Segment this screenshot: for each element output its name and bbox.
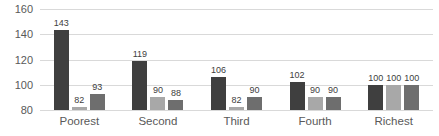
data-label-third-series1: 106 (206, 65, 232, 75)
data-label-fourth-series3: 90 (320, 85, 346, 95)
x-axis-category-label-fourth: Fourth (276, 115, 354, 128)
data-label-richest-series3: 100 (399, 73, 425, 83)
x-axis-category-label-second: Second (119, 115, 197, 128)
bar-second-series2 (150, 97, 165, 110)
data-label-fourth-series1: 102 (284, 70, 310, 80)
data-label-poorest-series1: 143 (48, 18, 74, 28)
data-label-third-series3: 90 (242, 85, 268, 95)
x-axis-category-label-third: Third (198, 115, 276, 128)
bar-fourth-series2 (308, 97, 323, 110)
data-label-poorest-series3: 93 (84, 82, 110, 92)
y-axis-tick-label-160: 160 (0, 3, 33, 15)
bar-third-series2 (229, 107, 244, 110)
data-label-third-series2: 82 (224, 95, 250, 105)
bar-third-series3 (247, 97, 262, 110)
bar-richest-series1 (368, 85, 383, 110)
bar-poorest-series3 (90, 94, 105, 110)
bar-richest-series2 (386, 85, 401, 110)
gridline-160 (40, 9, 433, 10)
bar-poorest-series2 (72, 107, 87, 110)
data-label-second-series3: 88 (163, 88, 189, 98)
bar-fourth-series3 (326, 97, 341, 110)
y-axis-tick-label-100: 100 (0, 79, 33, 91)
y-axis-tick-label-140: 140 (0, 28, 33, 40)
data-label-poorest-series2: 82 (66, 95, 92, 105)
gridline-140 (40, 34, 433, 35)
x-axis-category-label-poorest: Poorest (40, 115, 118, 128)
y-axis-tick-label-120: 120 (0, 54, 33, 66)
gridline-80 (40, 110, 433, 111)
grouped-bar-chart: 801001201401601438293Poorest1199088Secon… (0, 0, 439, 136)
data-label-second-series1: 119 (127, 49, 153, 59)
bar-second-series3 (168, 100, 183, 110)
bar-richest-series3 (404, 85, 419, 110)
x-axis-category-label-richest: Richest (355, 115, 433, 128)
y-axis-tick-label-80: 80 (0, 104, 33, 116)
gridline-120 (40, 60, 433, 61)
